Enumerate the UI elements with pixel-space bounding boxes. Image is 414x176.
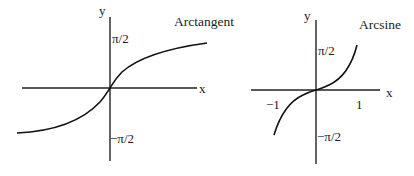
arcsin-title: Arcsine <box>359 18 401 32</box>
arcsin-y-label: y <box>304 9 311 22</box>
arcsin-pi-half-label: π/2 <box>318 44 335 57</box>
arcsin-neg-pi-half-label: −π/2 <box>317 130 341 143</box>
arcsin-x-label: x <box>386 86 393 99</box>
arctan-title: Arctangent <box>174 15 234 29</box>
arctan-neg-pi-half-label: −π/2 <box>110 132 134 145</box>
arcsin-pos-one-label: 1 <box>356 98 363 111</box>
arctan-x-label: x <box>199 82 206 95</box>
arctan-pi-half-label: π/2 <box>112 32 129 45</box>
arctan-y-label: y <box>99 4 106 17</box>
arcsin-neg-one-label: −1 <box>266 98 280 111</box>
